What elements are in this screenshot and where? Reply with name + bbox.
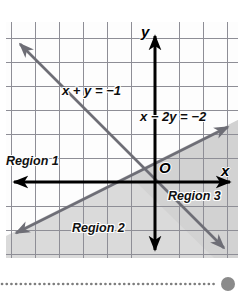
region-label-1: Region 1 <box>6 155 59 168</box>
y-axis-label: y <box>141 24 149 39</box>
equation-label-line1: x + y = −1 <box>62 84 121 97</box>
coordinate-plane <box>0 0 238 292</box>
graph-figure: x + y = −1 x − 2y = −2 Region 1 Region 2… <box>0 0 238 292</box>
region-label-3: Region 3 <box>168 190 221 203</box>
footer-dotted-rule <box>0 276 238 292</box>
x-axis-label: x <box>221 163 229 178</box>
equation-label-line2: x − 2y = −2 <box>140 110 206 123</box>
origin-label: O <box>159 160 171 175</box>
region-label-2: Region 2 <box>72 222 125 235</box>
end-dot <box>221 277 235 291</box>
